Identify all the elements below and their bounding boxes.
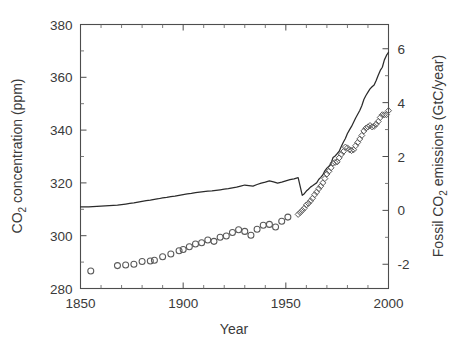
x-axis-title: Year xyxy=(220,321,249,337)
data-marker-circle xyxy=(211,238,217,244)
data-marker-circle xyxy=(205,237,211,243)
y2-tick-label: 4 xyxy=(398,96,406,111)
data-marker-circle xyxy=(186,244,192,250)
y-left-axis-ticks xyxy=(81,25,87,289)
y-tick-label: 280 xyxy=(50,282,73,297)
data-marker-circle xyxy=(254,226,260,232)
data-marker-circle xyxy=(131,261,137,267)
data-marker-circle xyxy=(199,240,205,246)
y-right-axis-title: Fossil CO2 emissions (GtC/year) xyxy=(430,55,449,257)
data-marker-circle xyxy=(279,218,285,224)
data-marker-circle xyxy=(160,254,166,260)
data-marker-circle xyxy=(192,241,198,247)
y-tick-label: 320 xyxy=(50,176,73,191)
data-marker-circle xyxy=(123,262,129,268)
y2-tick-label: -2 xyxy=(398,257,410,272)
y-right-axis-ticks xyxy=(383,49,389,265)
data-marker-circle xyxy=(260,222,266,228)
x-axis-tick-labels: 1850190019502000 xyxy=(65,296,403,311)
data-marker-circle xyxy=(180,246,186,252)
y-left-axis-title: CO2 concentration (ppm) xyxy=(9,79,28,234)
data-marker-circle xyxy=(114,263,120,269)
series-line-co2-concentration xyxy=(81,52,389,207)
data-marker-diamond xyxy=(295,211,301,217)
data-marker-circle xyxy=(242,228,248,234)
y2-tick-label: 6 xyxy=(398,42,406,57)
series-markers-emissions-decadal xyxy=(88,214,291,274)
y-tick-label: 380 xyxy=(50,18,73,33)
chart-figure: 1850190019502000 280300320340360380 -202… xyxy=(0,0,460,351)
data-marker-circle xyxy=(248,232,254,238)
data-marker-circle xyxy=(273,224,279,230)
data-marker-circle xyxy=(236,227,242,233)
y-tick-label: 360 xyxy=(50,70,73,85)
x-tick-label: 1850 xyxy=(65,296,95,311)
data-marker-circle xyxy=(147,258,153,264)
y2-tick-label: 2 xyxy=(398,150,406,165)
y2-tick-label: 0 xyxy=(398,203,406,218)
data-marker-circle xyxy=(176,248,182,254)
x-tick-label: 2000 xyxy=(373,296,403,311)
data-marker-circle xyxy=(139,259,145,265)
data-marker-circle xyxy=(229,229,235,235)
data-marker-diamond xyxy=(299,207,305,213)
x-tick-label: 1950 xyxy=(271,296,301,311)
data-marker-circle xyxy=(266,221,272,227)
y-tick-label: 340 xyxy=(50,123,73,138)
y-tick-label: 300 xyxy=(50,229,73,244)
data-marker-circle xyxy=(223,233,229,239)
data-series-layer xyxy=(81,52,392,274)
data-marker-circle xyxy=(151,257,157,263)
data-marker-diamond xyxy=(297,210,303,216)
data-marker-circle xyxy=(285,214,291,220)
y-right-axis-tick-labels: -20246 xyxy=(398,42,410,273)
data-marker-circle xyxy=(88,268,94,274)
co2-emissions-dual-axis-chart: 1850190019502000 280300320340360380 -202… xyxy=(0,0,460,351)
series-markers-emissions-annual xyxy=(295,108,391,218)
x-tick-label: 1900 xyxy=(168,296,198,311)
data-marker-circle xyxy=(217,234,223,240)
data-marker-circle xyxy=(168,251,174,257)
y-left-axis-tick-labels: 280300320340360380 xyxy=(50,18,73,297)
